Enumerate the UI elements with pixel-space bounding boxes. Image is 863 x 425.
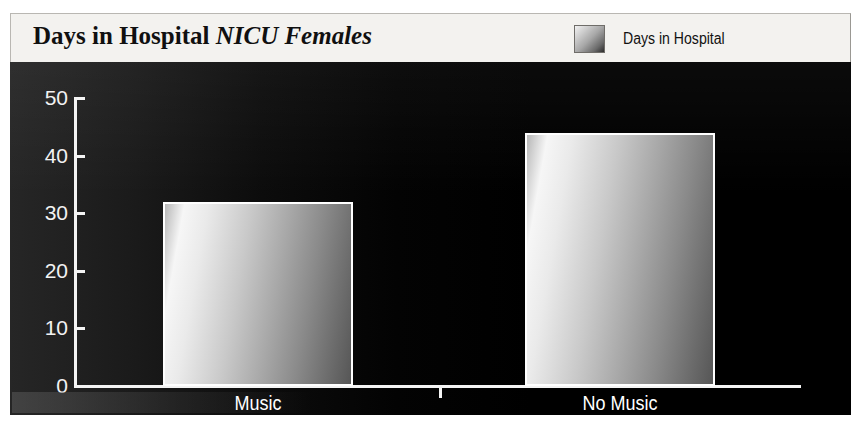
- chart-header: Days in Hospital NICU Females Days in Ho…: [10, 13, 851, 62]
- x-axis-tick-label: Music: [95, 392, 421, 415]
- chart-title-main: Days in Hospital: [33, 22, 216, 49]
- chart-legend: Days in Hospital: [574, 25, 739, 53]
- y-axis-tick-labels: 01020304050: [10, 62, 68, 415]
- y-axis-tick-label: 50: [24, 87, 68, 108]
- chart-title: Days in Hospital NICU Females: [33, 22, 372, 50]
- bar-music: [163, 202, 353, 386]
- bar-no-music: [525, 133, 715, 386]
- y-axis-tick: [74, 212, 85, 215]
- y-axis-tick: [74, 97, 85, 100]
- y-axis-tick-label: 20: [24, 260, 68, 281]
- legend-entry-label: Days in Hospital: [623, 30, 725, 48]
- y-axis-tick-label: 10: [24, 317, 68, 338]
- y-axis-tick: [74, 327, 85, 330]
- chart-title-italic: NICU Females: [216, 22, 372, 49]
- x-axis-tick-labels: MusicNo Music: [10, 388, 851, 415]
- plot-background-sheen: [10, 62, 851, 415]
- y-axis-tick-label: 40: [24, 145, 68, 166]
- y-axis-tick: [74, 155, 85, 158]
- legend-swatch-icon: [574, 25, 605, 53]
- y-axis-tick: [74, 270, 85, 273]
- plot-area: 01020304050 MusicNo Music: [10, 62, 851, 415]
- y-axis-line: [74, 98, 77, 388]
- x-axis-tick-label: No Music: [457, 392, 783, 415]
- chart-figure: Days in Hospital NICU Females Days in Ho…: [10, 13, 851, 415]
- y-axis-tick-label: 30: [24, 202, 68, 223]
